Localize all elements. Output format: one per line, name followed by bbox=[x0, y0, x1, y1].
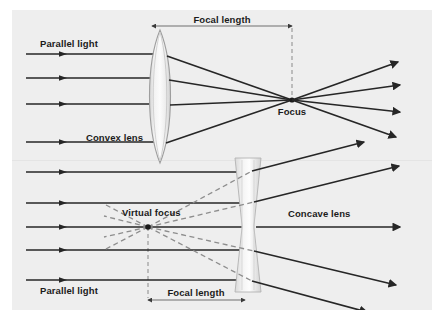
diagram-canvas: Parallel light Focal length Convex lens … bbox=[0, 0, 443, 327]
convex-parallel-light-label: Parallel light bbox=[40, 38, 99, 49]
panel-divider bbox=[12, 160, 432, 161]
convex-focus-label: Focus bbox=[278, 106, 306, 117]
concave-virtual-focus-label: Virtual focus bbox=[122, 207, 181, 218]
convex-lens-label: Convex lens bbox=[86, 132, 143, 143]
optics-diagram-figure: Parallel light Focal length Convex lens … bbox=[0, 0, 443, 327]
concave-virtual-focus-point bbox=[145, 224, 151, 230]
concave-focal-length-label: Focal length bbox=[167, 287, 224, 298]
concave-parallel-light-label: Parallel light bbox=[40, 285, 99, 296]
convex-focal-length-label: Focal length bbox=[193, 14, 250, 25]
concave-lens-label: Concave lens bbox=[288, 208, 350, 219]
